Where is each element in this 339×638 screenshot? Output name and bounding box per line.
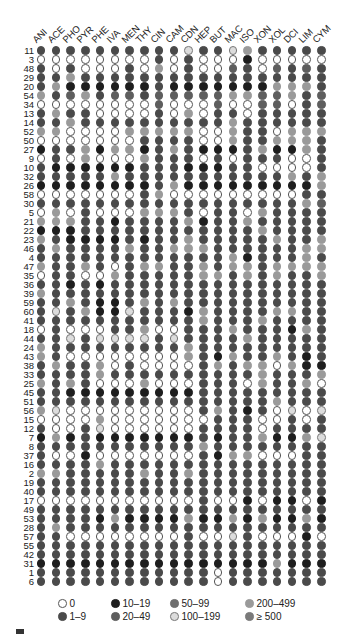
data-dot xyxy=(229,559,238,568)
data-dot xyxy=(317,532,326,541)
data-dot xyxy=(37,298,46,307)
data-dot xyxy=(125,325,134,334)
data-dot xyxy=(258,289,267,298)
data-dot xyxy=(302,406,311,415)
data-dot xyxy=(111,118,120,127)
data-dot xyxy=(258,145,267,154)
data-dot xyxy=(155,424,164,433)
data-dot xyxy=(96,253,105,262)
data-dot xyxy=(273,316,282,325)
data-dot xyxy=(288,298,297,307)
data-dot xyxy=(125,433,134,442)
data-dot xyxy=(111,154,120,163)
data-dot xyxy=(125,46,134,55)
data-dot xyxy=(140,424,149,433)
data-dot xyxy=(199,262,208,271)
data-dot xyxy=(214,424,223,433)
data-dot xyxy=(243,415,252,424)
data-dot xyxy=(302,136,311,145)
data-dot xyxy=(155,532,164,541)
data-dot xyxy=(273,541,282,550)
data-dot xyxy=(302,307,311,316)
data-dot xyxy=(81,172,90,181)
data-dot xyxy=(317,136,326,145)
data-dot xyxy=(199,487,208,496)
data-dot xyxy=(66,64,75,73)
data-dot xyxy=(273,505,282,514)
data-dot xyxy=(288,496,297,505)
data-dot xyxy=(125,280,134,289)
data-dot xyxy=(184,433,193,442)
data-dot xyxy=(66,190,75,199)
data-dot xyxy=(155,505,164,514)
data-dot xyxy=(96,280,105,289)
data-dot xyxy=(273,262,282,271)
data-dot xyxy=(52,370,61,379)
data-dot xyxy=(111,550,120,559)
data-dot xyxy=(273,478,282,487)
data-dot xyxy=(52,163,61,172)
data-dot xyxy=(317,208,326,217)
data-dot xyxy=(273,568,282,577)
data-dot xyxy=(170,181,179,190)
data-dot xyxy=(288,217,297,226)
data-dot xyxy=(302,235,311,244)
data-dot xyxy=(317,235,326,244)
data-dot xyxy=(140,82,149,91)
data-dot xyxy=(96,370,105,379)
data-dot xyxy=(155,523,164,532)
data-dot xyxy=(229,325,238,334)
data-dot xyxy=(37,217,46,226)
data-dot xyxy=(273,514,282,523)
data-dot xyxy=(214,100,223,109)
data-dot xyxy=(288,550,297,559)
data-dot xyxy=(288,370,297,379)
data-dot xyxy=(52,505,61,514)
data-dot xyxy=(258,226,267,235)
data-dot xyxy=(317,424,326,433)
data-dot xyxy=(184,316,193,325)
data-dot xyxy=(258,280,267,289)
data-dot xyxy=(81,298,90,307)
data-dot xyxy=(214,388,223,397)
data-dot xyxy=(81,289,90,298)
data-dot xyxy=(288,154,297,163)
data-dot xyxy=(52,244,61,253)
data-dot xyxy=(199,82,208,91)
data-dot xyxy=(96,244,105,253)
data-dot xyxy=(273,442,282,451)
data-dot xyxy=(66,307,75,316)
data-dot xyxy=(81,199,90,208)
data-dot xyxy=(81,82,90,91)
data-dot xyxy=(96,118,105,127)
data-dot xyxy=(184,343,193,352)
data-dot xyxy=(52,325,61,334)
data-dot xyxy=(111,577,120,586)
data-dot xyxy=(170,442,179,451)
data-dot xyxy=(140,388,149,397)
data-dot xyxy=(52,388,61,397)
data-dot xyxy=(214,289,223,298)
data-dot xyxy=(66,379,75,388)
legend-label: 100–199 xyxy=(182,611,221,622)
data-dot xyxy=(273,532,282,541)
data-dot xyxy=(52,91,61,100)
data-dot xyxy=(140,307,149,316)
data-dot xyxy=(140,145,149,154)
data-dot xyxy=(302,199,311,208)
data-dot xyxy=(229,352,238,361)
data-dot xyxy=(184,82,193,91)
data-dot xyxy=(317,316,326,325)
data-dot xyxy=(81,136,90,145)
data-dot xyxy=(184,541,193,550)
data-dot xyxy=(96,397,105,406)
data-dot xyxy=(96,199,105,208)
data-dot xyxy=(96,100,105,109)
data-dot xyxy=(140,91,149,100)
data-dot xyxy=(258,199,267,208)
data-dot xyxy=(273,73,282,82)
data-dot xyxy=(125,559,134,568)
data-dot xyxy=(52,46,61,55)
data-dot xyxy=(52,109,61,118)
data-dot xyxy=(214,397,223,406)
